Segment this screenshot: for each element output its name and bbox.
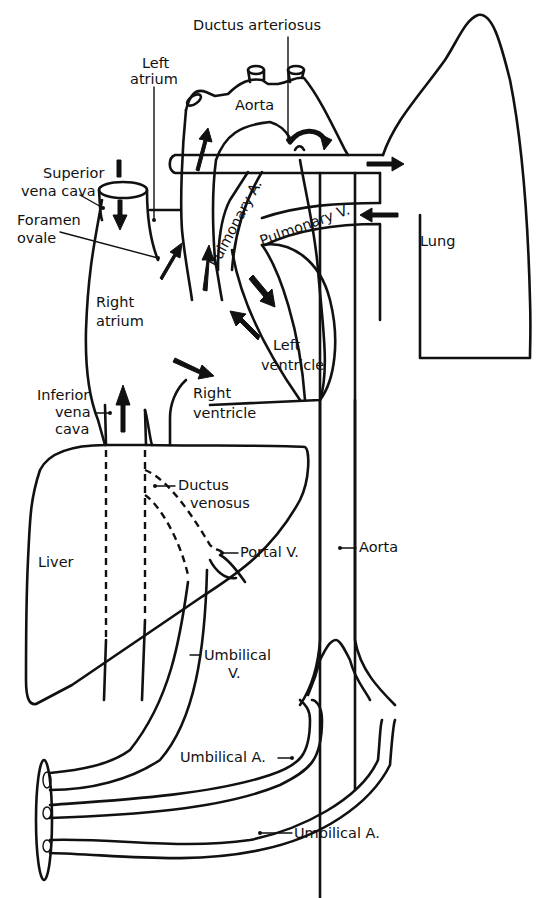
label-umbilical-artery-lower: Umbilical A. xyxy=(294,825,380,841)
label-right-ventricle-1: Right xyxy=(193,385,231,401)
label-inferior-vena-cava-1: Inferior xyxy=(37,387,89,403)
label-superior-vena-cava-2: vena cava xyxy=(21,183,96,199)
label-aorta-arch: Aorta xyxy=(235,97,274,113)
arrow-to-lung xyxy=(367,157,404,171)
label-liver: Liver xyxy=(38,554,74,570)
label-left-atrium-2: atrium xyxy=(130,71,178,87)
label-ductus-arteriosus: Ductus arteriosus xyxy=(193,17,321,33)
label-right-atrium-1: Right xyxy=(96,294,134,310)
label-aorta-descending: Aorta xyxy=(359,539,398,555)
ductus-arteriosus-arrow xyxy=(290,131,325,142)
label-inferior-vena-cava-3: cava xyxy=(55,421,89,437)
label-portal-vein: Portal V. xyxy=(240,544,299,560)
label-umbilical-vein-1: Umbilical xyxy=(204,647,271,663)
label-superior-vena-cava-1: Superior xyxy=(43,165,104,181)
arrow-from-lung xyxy=(360,208,398,222)
label-umbilical-vein-2: V. xyxy=(228,665,241,681)
ivc-up-arrow xyxy=(116,385,130,432)
label-foramen-ovale-1: Foramen xyxy=(17,212,81,228)
label-ductus-venosus-1: Ductus xyxy=(178,477,229,493)
ra-to-rv-arrow xyxy=(173,358,214,379)
lv-down-arrow xyxy=(249,275,275,307)
superior-vena-cava xyxy=(99,182,147,198)
label-ductus-venosus-2: venosus xyxy=(190,495,250,511)
label-umbilical-artery-upper: Umbilical A. xyxy=(180,749,266,765)
label-left-ventricle-2: ventricle xyxy=(261,357,324,373)
svc-arrow-top xyxy=(117,160,121,177)
svc-arrow-down xyxy=(113,200,127,230)
label-foramen-ovale-2: ovale xyxy=(17,230,56,246)
liver-outline xyxy=(26,445,308,704)
label-inferior-vena-cava-2: vena xyxy=(55,404,91,420)
label-lung: Lung xyxy=(420,233,455,249)
umbilical-cord xyxy=(36,760,52,880)
fetal-circulation-diagram: Ductus arteriosus Aorta Left atrium Supe… xyxy=(0,0,536,898)
foramen-ovale-arrow xyxy=(160,243,182,280)
label-left-ventricle-1: Left xyxy=(273,337,301,353)
aorta-up-arrow xyxy=(196,128,212,171)
label-left-atrium-1: Left xyxy=(142,55,170,71)
lung-outline xyxy=(383,15,530,358)
label-right-atrium-2: atrium xyxy=(96,313,144,329)
label-right-ventricle-2: ventricle xyxy=(193,405,256,421)
